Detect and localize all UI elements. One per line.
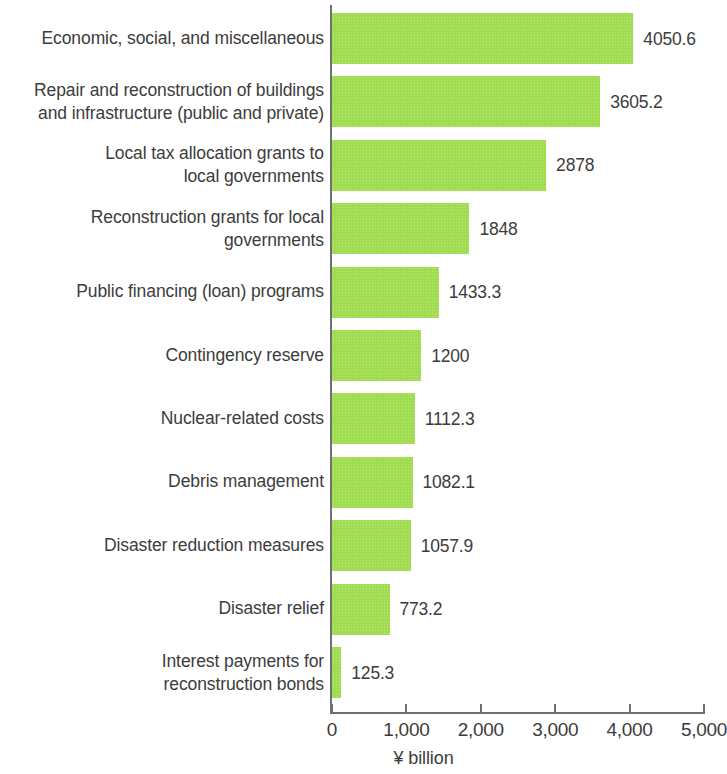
value-axis-ticks: 01,0002,0003,0004,0005,000	[0, 0, 727, 774]
x-tick-label: 4,000	[607, 719, 653, 741]
bar-chart: Economic, social, and miscellaneous4050.…	[0, 0, 727, 774]
x-axis-title: ¥ billion	[0, 748, 727, 769]
x-tick-label: 2,000	[458, 719, 504, 741]
x-tick-mark	[629, 704, 631, 713]
x-tick-mark	[480, 704, 482, 713]
x-tick-mark	[703, 704, 705, 714]
x-tick-label: 5,000	[681, 719, 727, 741]
x-axis-title-text: ¥ billion	[393, 748, 453, 769]
x-tick-label: 1,000	[383, 719, 429, 741]
x-tick-mark	[405, 704, 407, 713]
x-tick-mark	[554, 704, 556, 713]
x-tick-label: 0	[327, 719, 337, 741]
x-tick-label: 3,000	[532, 719, 578, 741]
x-tick-mark	[331, 704, 333, 714]
